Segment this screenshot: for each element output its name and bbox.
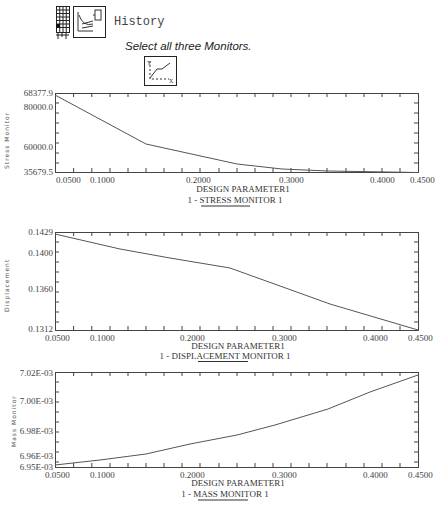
ytick: 6.98E-03 — [20, 426, 54, 436]
xy-plot-icon[interactable]: Y X — [144, 56, 177, 86]
history-label: History — [114, 15, 164, 29]
grid-palette-icon[interactable] — [56, 6, 70, 40]
ytick-bottom: 35679.5 — [24, 167, 54, 177]
xtick: 0.1000 — [90, 333, 115, 343]
stress-monitor-chart: Stress Monitor 68377.9 80000.0 60000.0 3… — [0, 84, 444, 212]
xtick: 0.1000 — [90, 470, 115, 480]
chart-xlabel: DESIGN PARAMETER1 — [191, 478, 284, 488]
xtick: 0.4500 — [410, 175, 435, 185]
ytick: 7.00E-03 — [20, 396, 54, 406]
xtick: 0.4000 — [363, 333, 388, 343]
history-plot-icon[interactable] — [73, 6, 106, 38]
ytick: 0.1400 — [28, 248, 53, 258]
mass-series-line — [55, 375, 418, 465]
xtick: 0.1000 — [90, 175, 115, 185]
chart-ylabel: Mass Monitor — [10, 395, 17, 447]
axis-ticks — [55, 93, 418, 172]
displacement-monitor-chart: Displacement 0.1429 0.1400 0.1360 0.1312… — [0, 222, 444, 360]
ytick-top: 0.1429 — [28, 227, 53, 237]
xtick: 0.0500 — [56, 175, 81, 185]
xtick: 0.0500 — [45, 333, 70, 343]
chart-legend: 1 - STRESS MONITOR 1 — [188, 195, 283, 205]
chart-ylabel: Displacement — [3, 259, 11, 312]
svg-text:Y: Y — [147, 60, 152, 66]
xtick: 0.4000 — [370, 175, 395, 185]
xtick: 0.4500 — [408, 333, 433, 343]
chart-xlabel: DESIGN PARAMETER1 — [191, 341, 284, 351]
stress-series-line — [55, 95, 418, 173]
ytick: 80000.0 — [24, 102, 54, 112]
ytick-top: 68377.9 — [24, 88, 54, 98]
chart-legend: 1 - MASS MONITOR 1 — [181, 489, 268, 499]
chart-xlabel: DESIGN PARAMETER1 — [196, 184, 289, 194]
ytick-top: 7.02E-03 — [20, 368, 54, 378]
ytick: 60000.0 — [24, 142, 54, 152]
xtick: 0.0500 — [45, 470, 70, 480]
displacement-series-line — [55, 234, 418, 330]
ytick: 6.96E-03 — [20, 451, 54, 461]
instruction-text: Select all three Monitors. — [125, 40, 252, 52]
mass-monitor-chart: Mass Monitor 7.02E-03 7.00E-03 6.98E-03 … — [0, 362, 444, 513]
xtick: 0.4500 — [408, 470, 433, 480]
ytick: 0.1360 — [28, 284, 53, 294]
chart-ylabel: Stress Monitor — [3, 112, 10, 169]
xtick: 0.4000 — [363, 470, 388, 480]
chart-legend: 1 - DISPLACEMENT MONITOR 1 — [159, 351, 290, 360]
